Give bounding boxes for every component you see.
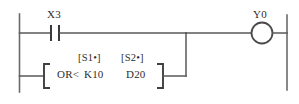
- coil-label-y0: Y0: [253, 9, 267, 20]
- operand-header-s1: [S1•]: [78, 53, 101, 64]
- instruction-bracket-open: [44, 64, 50, 88]
- ladder-logic-diagram: X3 Y0 [S1•] [S2•] OR< K10 D20: [0, 0, 299, 104]
- instruction-mnemonic: OR<: [57, 69, 79, 80]
- instruction-bracket-close: [157, 64, 163, 88]
- contact-label-x3: X3: [47, 9, 61, 20]
- operand-value-s1: K10: [84, 69, 104, 80]
- operand-header-s2: [S2•]: [121, 53, 144, 64]
- operand-value-s2: D20: [126, 69, 146, 80]
- output-coil-symbol: [252, 23, 273, 44]
